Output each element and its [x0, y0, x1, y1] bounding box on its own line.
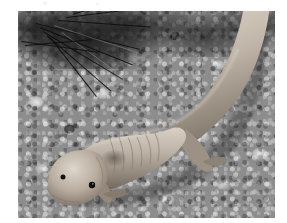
gravel-substrate — [18, 11, 275, 218]
salamander-on-gravel-photo — [18, 11, 275, 218]
conifer-sprig — [18, 11, 188, 69]
scan-artifact — [43, 2, 47, 5]
scan-artifact — [96, 3, 99, 5]
page-canvas — [0, 0, 287, 223]
